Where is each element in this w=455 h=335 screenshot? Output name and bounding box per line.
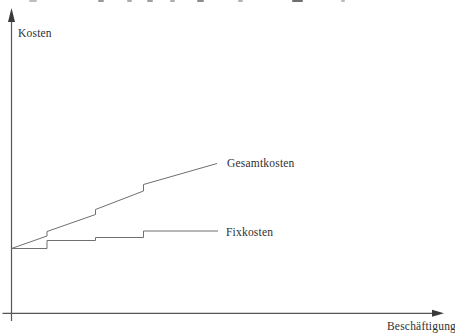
y-axis-arrowhead-icon <box>8 8 15 22</box>
fixkosten-line <box>12 231 219 249</box>
cost-diagram-figure: Kosten Gesamtkosten Fixkosten Beschäftig… <box>0 0 455 335</box>
gesamtkosten-series-label: Gesamtkosten <box>227 157 295 169</box>
x-axis-arrowhead-icon <box>432 310 444 317</box>
gesamtkosten-line <box>12 164 218 249</box>
x-axis-label: Beschäftigung <box>387 320 455 332</box>
fixkosten-series-label: Fixkosten <box>226 226 273 238</box>
y-axis-label: Kosten <box>18 27 52 39</box>
